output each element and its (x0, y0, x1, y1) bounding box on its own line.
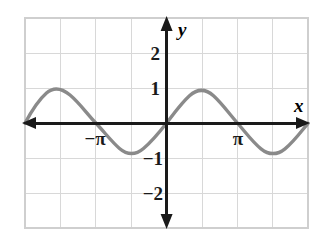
y-tick-label-2: 2 (151, 43, 161, 64)
y-tick-label-neg1: −1 (143, 148, 163, 169)
coordinate-plane-svg: 2 1 −1 −2 −π π y x (0, 0, 321, 244)
x-axis-label: x (293, 95, 304, 116)
y-tick-label-1: 1 (151, 78, 161, 99)
x-tick-label-pi: π (233, 128, 244, 149)
graph-figure: 2 1 −1 −2 −π π y x (0, 0, 321, 244)
y-axis-label: y (176, 19, 187, 40)
y-tick-label-neg2: −2 (143, 183, 163, 204)
x-tick-label-neg-pi: −π (84, 128, 106, 149)
